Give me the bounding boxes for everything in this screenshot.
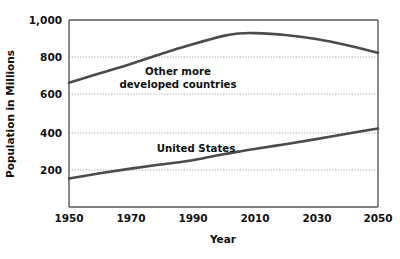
- y-tick-label-1000: 1,000: [29, 14, 62, 26]
- x-tick-label-2050: 2050: [363, 212, 392, 224]
- data-series: [69, 33, 378, 179]
- x-tick-label-1950: 1950: [54, 212, 83, 224]
- y-axis-title: Population in Millions: [4, 50, 16, 178]
- chart-container: 1,000 800 600 400 200 1950 1970 1990 201…: [0, 0, 400, 259]
- x-tick-label-2030: 2030: [302, 212, 331, 224]
- x-tick-label-1990: 1990: [178, 212, 207, 224]
- y-tick-label-800: 800: [40, 51, 62, 63]
- series-label-united-states: United States: [157, 143, 236, 154]
- population-projection-line-chart: 1,000 800 600 400 200 1950 1970 1990 201…: [0, 0, 400, 259]
- series-annotations: Other more developed countries United St…: [119, 66, 236, 154]
- x-tick-labels: 1950 1970 1990 2010 2030 2050: [54, 212, 392, 224]
- y-tick-labels: 1,000 800 600 400 200: [29, 14, 62, 176]
- x-tick-label-2010: 2010: [240, 212, 269, 224]
- x-tick-label-1970: 1970: [116, 212, 145, 224]
- y-tick-label-200: 200: [40, 164, 62, 176]
- series-label-other-developed-line1: Other more: [145, 66, 211, 77]
- series-label-other-developed-line2: developed countries: [119, 79, 236, 90]
- y-tick-label-400: 400: [40, 127, 62, 139]
- y-tick-label-600: 600: [40, 88, 62, 100]
- x-axis-title: Year: [209, 233, 237, 245]
- plot-frame: [69, 20, 378, 207]
- series-line-other-more-developed-countries: [69, 33, 378, 83]
